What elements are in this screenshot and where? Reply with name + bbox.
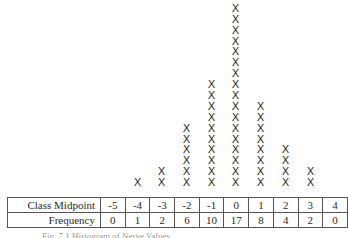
x-marker: X (208, 178, 216, 189)
x-marker: X (232, 178, 240, 189)
midpoint-cell: 1 (249, 198, 274, 213)
midpoint-cell: -4 (125, 198, 150, 213)
midpoint-cell: 4 (323, 198, 348, 213)
dot-plot: XXXXXXXXXXXXXXXXXXXXXXXXXXXXXXXXXXXXXXXX… (0, 0, 348, 196)
frequency-cell: 17 (224, 213, 249, 228)
frequency-cell: 1 (125, 213, 150, 228)
frequency-cell: 6 (175, 213, 200, 228)
x-marker: X (257, 178, 265, 189)
frequency-table: Class Midpoint -5 -4 -3 -2 -1 0 1 2 3 4 … (7, 197, 348, 228)
figure-caption: Fig. 7.1 Histogram of Nerve Values (42, 231, 170, 238)
dot-column: X (128, 178, 148, 189)
frequency-cell: 0 (323, 213, 348, 228)
midpoint-cell: -5 (101, 198, 126, 213)
dot-column: XX (152, 167, 172, 189)
dot-column: XXXXXXXXXX (202, 80, 222, 189)
x-marker: X (183, 178, 191, 189)
midpoint-cell: 2 (273, 198, 298, 213)
dot-column: XXXXXXXX (251, 102, 271, 189)
x-marker: X (134, 178, 142, 189)
midpoint-cell: -3 (150, 198, 175, 213)
dot-column: XX (301, 167, 321, 189)
frequency-cell: 2 (150, 213, 175, 228)
dot-column: XXXX (276, 145, 296, 189)
frequency-row: Frequency 0 1 2 6 10 17 8 4 2 0 (8, 213, 348, 228)
frequency-cell: 2 (298, 213, 323, 228)
dot-column: XXXXXXXXXXXXXXXXX (226, 4, 246, 189)
midpoint-row: Class Midpoint -5 -4 -3 -2 -1 0 1 2 3 4 (8, 198, 348, 213)
frequency-cell: 8 (249, 213, 274, 228)
frequency-row-label: Frequency (8, 213, 101, 228)
x-marker: X (282, 178, 290, 189)
x-marker: X (158, 178, 166, 189)
dot-column: XXXXXX (177, 124, 197, 189)
midpoint-cell: 0 (224, 198, 249, 213)
frequency-cell: 10 (199, 213, 224, 228)
frequency-cell: 4 (273, 213, 298, 228)
midpoint-cell: 3 (298, 198, 323, 213)
x-marker: X (307, 178, 315, 189)
midpoint-cell: -2 (175, 198, 200, 213)
midpoint-row-label: Class Midpoint (8, 198, 101, 213)
frequency-cell: 0 (101, 213, 126, 228)
midpoint-cell: -1 (199, 198, 224, 213)
